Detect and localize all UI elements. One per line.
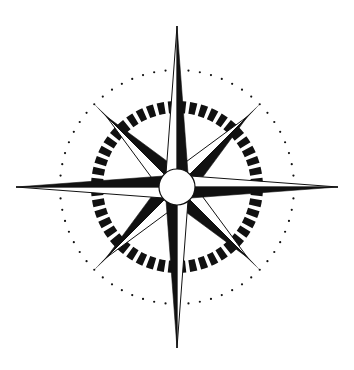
circle-dot (221, 294, 223, 296)
circle-dot (288, 152, 290, 154)
circle-dot (284, 141, 286, 143)
circle-dot (250, 95, 252, 97)
circle-dot (187, 69, 189, 71)
circle-dot (266, 112, 268, 114)
circle-dot (187, 302, 189, 304)
circle-dot (231, 289, 233, 291)
circle-dot (142, 74, 144, 76)
circle-dot (68, 141, 70, 143)
circle-dot (273, 121, 275, 123)
circle-dot (241, 89, 243, 91)
circle-dot (121, 83, 123, 85)
circle-dot (279, 131, 281, 133)
circle-dot (111, 283, 113, 285)
compass-rose-canvas (0, 0, 354, 370)
circle-dot (73, 131, 75, 133)
center-hub-circle (159, 169, 195, 205)
circle-dot (79, 121, 81, 123)
circle-dot (164, 302, 166, 304)
circle-dot (199, 71, 201, 73)
circle-dot (279, 241, 281, 243)
circle-dot (164, 69, 166, 71)
circle-dot (153, 301, 155, 303)
circle-dot (273, 251, 275, 253)
circle-dot (210, 74, 212, 76)
circle-dot (284, 231, 286, 233)
circle-dot (102, 276, 104, 278)
circle-dot (291, 163, 293, 165)
circle-dot (131, 78, 133, 80)
circle-dot (61, 209, 63, 211)
circle-dot (111, 89, 113, 91)
circle-dot (231, 83, 233, 85)
circle-dot (292, 174, 294, 176)
circle-dot (61, 163, 63, 165)
circle-dot (250, 276, 252, 278)
circle-dot (73, 241, 75, 243)
circle-dot (241, 283, 243, 285)
circle-dot (59, 197, 61, 199)
circle-dot (121, 289, 123, 291)
circle-dot (85, 112, 87, 114)
circle-dot (64, 220, 66, 222)
circle-dot (131, 294, 133, 296)
circle-dot (291, 209, 293, 211)
circle-dot (59, 174, 61, 176)
circle-dot (153, 71, 155, 73)
circle-dot (142, 298, 144, 300)
circle-dot (221, 78, 223, 80)
circle-dot (292, 197, 294, 199)
circle-dot (64, 152, 66, 154)
circle-dot (79, 251, 81, 253)
circle-dot (210, 298, 212, 300)
circle-dot (199, 301, 201, 303)
circle-dot (102, 95, 104, 97)
circle-dot (266, 260, 268, 262)
circle-dot (288, 220, 290, 222)
circle-dot (68, 231, 70, 233)
compass-rose-drawing (0, 0, 354, 370)
circle-dot (85, 260, 87, 262)
